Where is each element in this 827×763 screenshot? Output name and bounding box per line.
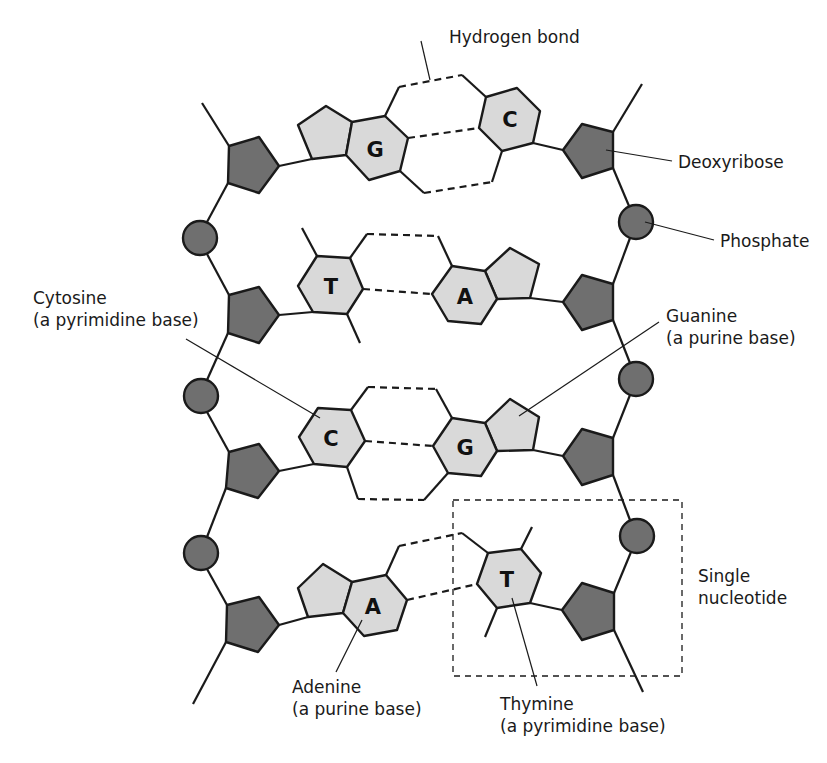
adenine-name: Adenine: [292, 676, 422, 698]
guanine-description: (a purine base): [666, 327, 796, 349]
phosphate-group: [184, 536, 218, 570]
base-letter: C: [323, 427, 338, 451]
phosphate-group: [184, 379, 218, 413]
thymine-description: (a pyrimidine base): [500, 715, 666, 737]
base-pair-c-g: C G: [279, 387, 563, 500]
cytosine-name: Cytosine: [33, 287, 199, 309]
left-backbone: [183, 103, 279, 704]
guanine-pentagon: [298, 106, 352, 159]
dna-diagram: G C T A C: [0, 0, 827, 763]
deoxyribose-sugar: [563, 429, 613, 485]
label-hydrogen-bond: Hydrogen bond: [449, 26, 580, 48]
cytosine-description: (a pyrimidine base): [33, 309, 199, 331]
phosphate-group: [619, 205, 653, 239]
deoxyribose-sugar: [563, 275, 613, 330]
deoxyribose-sugar: [228, 287, 279, 343]
base-pair-g-c: G C: [279, 75, 563, 193]
phosphate-group: [620, 519, 654, 553]
label-thymine: Thymine (a pyrimidine base): [500, 693, 666, 737]
label-phosphate: Phosphate: [720, 230, 809, 252]
guanine-name: Guanine: [666, 305, 796, 327]
base-letter: T: [324, 275, 339, 299]
label-guanine: Guanine (a purine base): [666, 305, 796, 349]
base-letter: A: [365, 595, 382, 619]
label-adenine: Adenine (a purine base): [292, 676, 422, 720]
base-pair-a-t: A T: [279, 527, 562, 637]
label-deoxyribose: Deoxyribose: [678, 151, 784, 173]
label-single-nucleotide: Single nucleotide: [698, 565, 787, 609]
phosphate-group: [183, 221, 217, 255]
deoxyribose-sugar: [228, 137, 279, 193]
single-nucleotide-line1: Single: [698, 565, 787, 587]
right-backbone: [562, 84, 654, 692]
deoxyribose-sugar: [563, 124, 613, 178]
base-letter: A: [457, 285, 474, 309]
deoxyribose-sugar: [226, 597, 279, 652]
base-letter: T: [500, 568, 515, 592]
base-letter: G: [456, 436, 473, 460]
deoxyribose-sugar: [562, 583, 614, 640]
base-letter: C: [502, 108, 517, 132]
thymine-name: Thymine: [500, 693, 666, 715]
base-pair-t-a: T A: [279, 228, 563, 343]
phosphate-group: [619, 362, 653, 396]
base-letter: G: [366, 138, 383, 162]
adenine-description: (a purine base): [292, 698, 422, 720]
deoxyribose-sugar: [226, 444, 279, 498]
label-cytosine: Cytosine (a pyrimidine base): [33, 287, 199, 331]
single-nucleotide-line2: nucleotide: [698, 587, 787, 609]
